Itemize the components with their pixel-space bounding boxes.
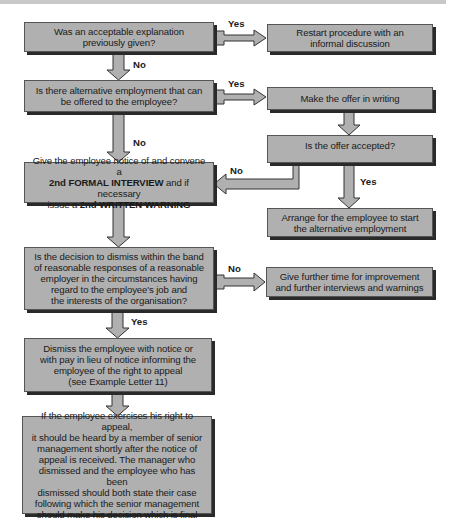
- node-text: dismissed and the employee who has been: [27, 465, 207, 487]
- node-restart-procedure: Restart procedure with an informal discu…: [267, 24, 433, 52]
- node-text: and further interviews and warnings: [276, 282, 424, 293]
- edge-label-no: No: [133, 137, 146, 148]
- node-text: Is the offer accepted?: [305, 140, 395, 151]
- node-text: management shortly after the notice of: [27, 443, 207, 454]
- node-text-bold: 2nd WRITTEN WARNING: [80, 199, 191, 210]
- node-text: Is the decision to dismiss within the ba…: [34, 251, 204, 262]
- arrow-down-icon: [107, 52, 130, 80]
- arrow-down-icon: [106, 310, 129, 338]
- node-text: Give the employee notice of and convene …: [29, 155, 209, 177]
- node-text: If the employee exercises his right to a…: [27, 410, 207, 432]
- edge-label-no: No: [230, 165, 243, 176]
- edge-label-yes: Yes: [228, 18, 245, 29]
- node-text: employee of the right to appeal: [40, 365, 196, 376]
- node-text: following which the senior management: [27, 498, 207, 509]
- node-alternative-employment: Is there alternative employment that can…: [24, 80, 214, 112]
- node-text: it should be heard by a member of senior: [27, 432, 207, 443]
- node-text: issue a: [48, 199, 80, 210]
- node-text: Is there alternative employment that can: [36, 85, 203, 96]
- node-text: (see Example Letter 11): [40, 376, 196, 387]
- node-acceptable-explanation: Was an acceptable explanation previously…: [24, 22, 214, 52]
- node-offer-accepted: Is the offer accepted?: [267, 135, 433, 163]
- node-text: Give further time for improvement: [276, 271, 424, 282]
- node-text: Restart procedure with an: [296, 27, 403, 38]
- arrow-right-icon: [214, 273, 265, 291]
- node-text: appeal is received. The manager who: [27, 454, 207, 465]
- node-text: dismissed should both state their case: [27, 487, 207, 498]
- node-text: regard to the employee's job and: [34, 284, 204, 295]
- edge-label-yes: Yes: [360, 176, 377, 187]
- node-text: the interests of the organisation?: [34, 295, 204, 306]
- node-text: informal discussion: [296, 38, 403, 49]
- node-text: Arrange for the employee to start: [282, 212, 419, 223]
- arrow-right-icon: [214, 89, 266, 105]
- arrow-down-icon: [338, 163, 360, 208]
- edge-label-yes: Yes: [228, 78, 245, 89]
- node-text: Make the offer in writing: [300, 93, 399, 104]
- node-appeal: If the employee exercises his right to a…: [22, 416, 212, 514]
- node-text-bold: 2nd FORMAL INTERVIEW: [49, 177, 163, 188]
- node-second-formal-interview: Give the employee notice of and convene …: [24, 162, 214, 203]
- arrow-down-icon: [338, 110, 360, 135]
- node-text: previously given?: [54, 37, 184, 48]
- node-offer-in-writing: Make the offer in writing: [267, 87, 433, 110]
- node-arrange-alternative: Arrange for the employee to start the al…: [267, 208, 433, 237]
- edge-label-no: No: [228, 263, 241, 274]
- node-text: Dismiss the employee with notice or: [40, 343, 196, 354]
- arrow-right-icon: [214, 30, 266, 46]
- node-further-time: Give further time for improvement and fu…: [266, 267, 433, 297]
- node-text: of reasonable responses of a reasonable: [34, 262, 204, 273]
- node-text: Was an acceptable explanation: [54, 26, 184, 37]
- node-dismiss-employee: Dismiss the employee with notice or with…: [24, 338, 212, 392]
- node-text: employer in the circumstances having: [34, 273, 204, 284]
- node-text: the alternative employment: [282, 223, 419, 234]
- edge-label-no: No: [133, 59, 146, 70]
- node-text: with pay in lieu of notice informing the: [40, 354, 196, 365]
- node-text: be offered to the employee?: [36, 96, 203, 107]
- node-band-of-reasonable-responses: Is the decision to dismiss within the ba…: [24, 247, 214, 310]
- arrow-left-icon: [214, 163, 299, 194]
- node-text: should make his decision which is final: [27, 509, 207, 520]
- edge-label-yes: Yes: [131, 316, 148, 327]
